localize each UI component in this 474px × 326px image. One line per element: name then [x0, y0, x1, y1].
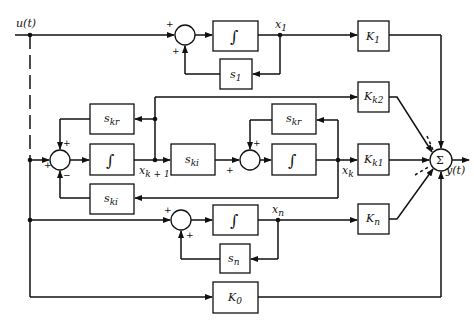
sigma-symbol: Σ: [436, 154, 444, 167]
sign-minus: −: [63, 170, 71, 180]
block-diagram: u(t) + + ∫ x1 s1 K1 Kk2 + + − ∫ xk + 1 s…: [0, 0, 474, 326]
sign-plus: +: [172, 46, 180, 56]
sign-plus: +: [166, 19, 174, 29]
sign-plus: +: [44, 160, 52, 170]
state-xk-label: xk: [342, 164, 354, 179]
sign-plus: +: [63, 138, 71, 148]
line: [389, 169, 433, 219]
line: [389, 97, 432, 152]
summing-junction-4: [171, 210, 191, 230]
state-x1-label: x1: [275, 18, 287, 33]
summing-junction-2: [50, 150, 70, 170]
state-xn-label: xn: [272, 203, 284, 218]
sign-plus: +: [253, 138, 261, 148]
sign-plus: +: [164, 205, 172, 215]
integrator-symbol: ∫: [288, 151, 296, 170]
integrator-symbol: ∫: [230, 27, 238, 46]
integrator-symbol: ∫: [230, 211, 238, 230]
state-xk1-label: xk + 1: [139, 164, 170, 179]
sign-plus: +: [186, 230, 194, 240]
summing-junction-3: [240, 150, 260, 170]
sign-plus: +: [226, 165, 234, 175]
summing-junction-1: [175, 25, 195, 45]
integrator-symbol: ∫: [106, 151, 114, 170]
input-label: u(t): [16, 17, 36, 30]
dashed-input-arrow: [415, 166, 430, 175]
output-label: y(t): [445, 164, 465, 177]
